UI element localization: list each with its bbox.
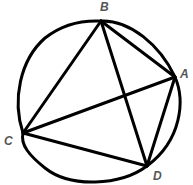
vertex-label-d: D: [153, 169, 162, 183]
circumscribed-circle: [18, 21, 180, 182]
vertex-label-c: C: [4, 134, 13, 148]
diagonal-ac: [23, 77, 175, 133]
side-ab: [101, 21, 175, 77]
side-bc: [23, 21, 101, 133]
cyclic-quadrilateral-diagram: A B C D: [0, 0, 193, 185]
diagonal-bd: [101, 21, 147, 166]
vertex-label-a: A: [179, 67, 189, 81]
vertex-label-b: B: [100, 0, 109, 14]
side-cd: [23, 133, 147, 166]
